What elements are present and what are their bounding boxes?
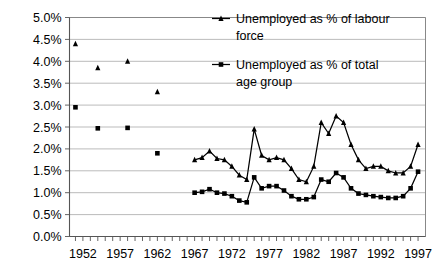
y-axis-label: 4.5% (33, 33, 62, 47)
square-marker-icon (155, 151, 160, 156)
y-axis-label: 0.0% (33, 230, 62, 244)
square-marker-icon (408, 186, 413, 191)
series-2 (73, 105, 420, 205)
triangle-marker-icon (259, 152, 264, 158)
legend-label: Unemployed as % of labour (236, 12, 390, 26)
square-marker-icon (73, 105, 78, 110)
y-axis-tick-labels: 0.0%0.5%1.0%1.5%2.0%2.5%3.0%3.5%4.0%4.5%… (33, 11, 62, 244)
y-axis-label: 3.5% (33, 77, 62, 91)
square-marker-icon (401, 194, 406, 199)
square-marker-icon (282, 188, 287, 193)
square-marker-icon (371, 194, 376, 199)
triangle-marker-icon (356, 157, 361, 163)
square-marker-icon (326, 179, 331, 184)
square-marker-icon (416, 169, 421, 174)
square-marker-icon (334, 171, 339, 176)
square-marker-icon (304, 197, 309, 202)
triangle-marker-icon (73, 41, 78, 47)
x-axis-label: 1982 (292, 247, 320, 261)
triangle-marker-icon (408, 163, 413, 169)
legend-entry: Unemployed as % of totalage group (212, 58, 378, 89)
y-axis-label: 3.0% (33, 99, 62, 113)
x-axis-label: 1962 (143, 247, 171, 261)
square-marker-icon (386, 196, 391, 201)
x-axis-label: 1987 (330, 247, 358, 261)
square-marker-icon (192, 190, 197, 195)
square-marker-icon (319, 177, 324, 182)
legend-label-continued: force (236, 29, 264, 43)
x-axis-label: 1952 (69, 247, 97, 261)
square-marker-icon (207, 187, 212, 192)
square-marker-icon (364, 193, 369, 198)
square-marker-icon (244, 200, 249, 205)
square-marker-icon (96, 126, 101, 131)
chart-container: 0.0%0.5%1.0%1.5%2.0%2.5%3.0%3.5%4.0%4.5%… (0, 0, 442, 274)
triangle-marker-icon (95, 65, 100, 71)
y-axis-label: 4.0% (33, 55, 62, 69)
x-axis-label: 1972 (218, 247, 246, 261)
square-marker-icon (349, 186, 354, 191)
x-axis-label: 1967 (181, 247, 209, 261)
x-axis-tick-labels: 1952195719621967197219771982198719921997 (69, 247, 432, 261)
x-axis-label: 1957 (106, 247, 134, 261)
square-marker-icon (393, 196, 398, 201)
triangle-marker-icon (319, 120, 324, 126)
square-marker-icon (289, 194, 294, 199)
y-axis-label: 1.5% (33, 164, 62, 178)
triangle-marker-icon (415, 141, 420, 147)
square-marker-icon (311, 195, 316, 200)
square-marker-icon (259, 186, 264, 191)
y-axis-label: 5.0% (33, 11, 62, 25)
legend-label: Unemployed as % of total (236, 58, 378, 72)
legend-entry: Unemployed as % of labourforce (212, 12, 390, 43)
triangle-marker-icon (274, 155, 279, 161)
triangle-marker-icon (155, 89, 160, 95)
square-marker-icon (237, 198, 242, 203)
unemployment-line-chart: 0.0%0.5%1.0%1.5%2.0%2.5%3.0%3.5%4.0%4.5%… (0, 0, 442, 274)
axis-ticks (65, 18, 418, 242)
gridlines (70, 18, 426, 215)
square-marker-icon (379, 195, 384, 200)
square-marker-icon (215, 190, 220, 195)
square-marker-icon (356, 191, 361, 196)
legend-label-continued: age group (236, 75, 292, 89)
square-marker-icon (230, 194, 235, 199)
x-axis-label: 1997 (404, 247, 432, 261)
square-marker-icon (297, 197, 302, 202)
chart-legend: Unemployed as % of labourforceUnemployed… (212, 12, 390, 89)
square-marker-icon (341, 175, 346, 180)
y-axis-label: 2.0% (33, 142, 62, 156)
triangle-marker-icon (311, 163, 316, 169)
square-marker-icon (267, 184, 272, 189)
y-axis-label: 2.5% (33, 121, 62, 135)
square-marker-icon (252, 175, 257, 180)
square-marker-icon (274, 184, 279, 189)
triangle-marker-icon (334, 113, 339, 119)
square-marker-icon (200, 190, 205, 195)
square-marker-icon (125, 126, 130, 131)
y-axis-label: 1.0% (33, 186, 62, 200)
square-marker-icon (219, 62, 224, 67)
x-axis-label: 1992 (367, 247, 395, 261)
y-axis-label: 0.5% (33, 208, 62, 222)
x-axis-label: 1977 (255, 247, 283, 261)
triangle-marker-icon (348, 141, 353, 147)
square-marker-icon (222, 191, 227, 196)
